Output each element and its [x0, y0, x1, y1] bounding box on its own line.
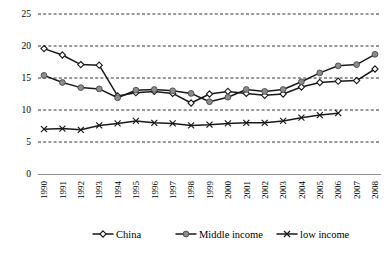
x-tick-label: 2007: [352, 181, 362, 200]
marker-middle-income: [41, 73, 47, 79]
y-axis-tick-labels: 0510152025: [22, 9, 32, 179]
x-tick-label: 1999: [205, 181, 215, 200]
x-tick-label: 1997: [168, 181, 178, 200]
marker-china: [317, 79, 323, 85]
gridlines-group: [38, 14, 381, 142]
marker-china: [206, 91, 212, 97]
x-tick-label: 2005: [315, 181, 325, 200]
y-tick-label: 5: [26, 137, 31, 147]
marker-middle-income: [96, 86, 102, 92]
chart-canvas: 0510152025 19901991199219931994199519961…: [0, 0, 386, 255]
marker-middle-income: [299, 79, 305, 85]
marker-middle-income: [354, 62, 360, 68]
marker-middle-income: [170, 88, 176, 94]
legend-item-middle-income[interactable]: Middle income: [176, 229, 263, 240]
line-chart: 0510152025 19901991199219931994199519961…: [0, 0, 386, 255]
legend-marker: [100, 231, 106, 237]
y-tick-label: 10: [22, 105, 32, 115]
legend-item-low-income[interactable]: low income: [277, 229, 350, 240]
legend-item-china[interactable]: China: [93, 229, 141, 240]
x-axis-tick-labels: 1990199119921993199419951996199719981999…: [39, 181, 380, 200]
marker-middle-income: [262, 89, 268, 95]
marker-middle-income: [243, 87, 249, 93]
marker-middle-income: [225, 94, 231, 100]
marker-middle-income: [335, 63, 341, 69]
marker-china: [225, 88, 231, 94]
legend-label: low income: [300, 229, 350, 240]
x-tick-label: 2001: [242, 181, 252, 199]
x-tick-label: 2003: [278, 181, 288, 200]
marker-china: [59, 52, 65, 58]
y-tick-label: 25: [22, 9, 32, 19]
marker-middle-income: [115, 95, 121, 101]
legend-label: Middle income: [199, 229, 263, 240]
marker-china: [188, 100, 194, 106]
marker-middle-income: [280, 87, 286, 93]
chart-legend: ChinaMiddle incomelow income: [93, 229, 350, 240]
marker-middle-income: [151, 87, 157, 93]
marker-middle-income: [133, 87, 139, 93]
x-tick-label: 1991: [58, 181, 68, 199]
marker-middle-income: [317, 70, 323, 76]
x-tick-label: 1993: [94, 181, 104, 200]
x-tick-label: 1992: [76, 181, 86, 199]
x-tick-label: 2006: [333, 181, 343, 200]
marker-middle-income: [60, 80, 66, 86]
y-tick-label: 15: [22, 73, 32, 83]
y-tick-label: 0: [26, 169, 31, 179]
marker-middle-income: [78, 85, 84, 91]
x-tick-label: 2002: [260, 181, 270, 199]
marker-china: [41, 46, 47, 52]
series-line-low-income: [44, 113, 338, 130]
x-tick-label: 1994: [113, 181, 123, 200]
marker-middle-income: [188, 91, 194, 97]
series-lines-group: [44, 49, 375, 130]
series-markers-group: [41, 46, 378, 133]
x-tick-label: 2008: [370, 181, 380, 200]
x-tick-label: 2000: [223, 181, 233, 200]
x-tick-label: 1995: [131, 181, 141, 200]
marker-middle-income: [372, 51, 378, 57]
x-tick-label: 1998: [186, 181, 196, 200]
legend-label: China: [116, 229, 141, 240]
x-tick-label: 1990: [39, 181, 49, 200]
x-tick-label: 2004: [297, 181, 307, 200]
marker-middle-income: [207, 99, 213, 105]
x-tick-label: 1996: [150, 181, 160, 200]
marker-china: [78, 62, 84, 68]
marker-china: [335, 78, 341, 84]
y-tick-label: 20: [22, 41, 32, 51]
legend-marker: [183, 231, 189, 237]
